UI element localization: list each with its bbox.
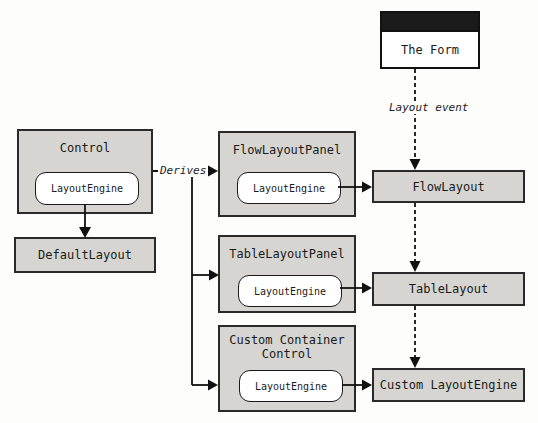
arrowhead-down-flowlayout [410,159,421,170]
arrowhead-right-customengine [362,380,372,391]
tablelayoutpanel-layoutengine-pill: LayoutEngine [238,275,342,307]
arrowhead-right-flowlayout [362,182,372,193]
custom-container-layoutengine-pill: LayoutEngine [239,370,343,402]
custom-container-control-box: Custom Container Control LayoutEngine [218,325,356,412]
defaultlayout-box: DefaultLayout [14,237,156,273]
form-title: The Form [382,32,478,67]
flowlayoutpanel-title: FlowLayoutPanel [220,143,354,157]
layout-event-label: Layout event [387,101,470,114]
arrowhead-down-customengine [410,357,421,368]
arrowhead-right-customcontainer [208,380,218,391]
flowlayout-box: FlowLayout [372,170,525,203]
form-titlebar [382,13,478,32]
flowlayoutpanel-box: FlowLayoutPanel LayoutEngine [218,131,356,217]
diagram-canvas: The Form Layout event Derives Control La… [0,0,538,423]
flowlayoutpanel-layoutengine-pill: LayoutEngine [237,172,341,204]
control-layoutengine-pill: LayoutEngine [35,172,139,205]
custom-container-control-title: Custom Container Control [220,333,354,361]
derives-label: Derives [158,164,208,177]
arrowhead-down-tablelayout [410,261,421,272]
tablelayoutpanel-box: TableLayoutPanel LayoutEngine [218,235,356,313]
control-box: Control LayoutEngine [17,129,153,214]
tablelayoutpanel-title: TableLayoutPanel [220,247,354,261]
form-window: The Form [380,11,480,69]
custom-layoutengine-box: Custom LayoutEngine [372,368,525,402]
control-box-title: Control [19,141,151,155]
tablelayout-box: TableLayout [372,272,525,306]
arrowhead-right-tablelayout [362,283,372,294]
arrowhead-right-flowlayoutpanel [208,166,218,177]
